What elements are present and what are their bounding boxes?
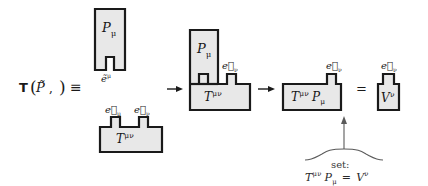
basis-vector-e-nu-index-2: ν xyxy=(234,66,238,73)
p-covector-shape-1 xyxy=(95,9,125,70)
tensor-label-1: Tμν xyxy=(116,131,134,146)
annotation-caption: set: xyxy=(331,159,349,170)
argument-comma: , xyxy=(49,81,53,95)
contracted-index-t: μν xyxy=(299,89,309,98)
tensor-base-2: T xyxy=(204,90,212,104)
p-covector-base-2: P xyxy=(197,41,206,56)
contracted-index-p: μ xyxy=(320,97,325,106)
basis-vector-e-nu-label-3: e⃗ν xyxy=(326,60,342,73)
equivalence-symbol: ≡ xyxy=(70,79,82,95)
brace-arrowhead xyxy=(341,116,347,124)
basis-vector-e-mu-index: μ xyxy=(117,110,121,117)
basis-vector-e-nu-index-3: ν xyxy=(338,66,342,73)
basis-vector-e-nu-label-2: e⃗ν xyxy=(222,60,238,73)
arrow-2-head xyxy=(268,86,275,92)
basis-vector-e-nu-glyph-4: e⃗ xyxy=(381,60,393,71)
tensor-index-1: μν xyxy=(124,131,134,140)
p-covector-label-2: Pμ xyxy=(197,41,211,59)
annotation-t: T xyxy=(305,171,313,184)
basis-vector-e-nu-index: ν xyxy=(146,110,150,117)
annotation-v-index: ν xyxy=(364,170,368,178)
basis-vector-e-nu-index-4: ν xyxy=(393,66,397,73)
vector-base: V xyxy=(381,91,390,105)
contracted-label: TμνPμ xyxy=(291,89,325,106)
p-covector-index-2: μ xyxy=(206,50,211,59)
contracted-base-t: T xyxy=(291,90,299,104)
annotation-equation: TμνPμ=Vν xyxy=(305,170,369,186)
equals-symbol: = xyxy=(356,81,367,96)
p-covector-label-1: Pμ xyxy=(102,20,116,38)
p-covector-base-1: P xyxy=(102,20,111,35)
p-covector-index-1: μ xyxy=(111,29,116,38)
vector-label: Vν xyxy=(381,90,395,105)
vector-index: ν xyxy=(390,90,395,99)
annotation-t-index: μν xyxy=(313,170,322,178)
annotation-p: P xyxy=(325,171,333,184)
annotation-p-index: μ xyxy=(332,178,337,186)
basis-vector-e-nu-label-4: e⃗ν xyxy=(381,60,397,73)
close-paren: ) xyxy=(59,77,66,97)
basis-covector-e-mu-label-1: ẽμ xyxy=(101,72,111,84)
basis-vector-e-nu-glyph: e⃗ xyxy=(134,104,146,115)
tensor-base-1: T xyxy=(116,132,124,146)
basis-vector-e-mu-label-1: e⃗μ xyxy=(105,104,121,117)
basis-vector-e-nu-label-1: e⃗ν xyxy=(134,104,150,117)
tensor-label-2: Tμν xyxy=(204,89,222,104)
basis-vector-e-nu-glyph-3: e⃗ xyxy=(326,60,338,71)
annotation-equals: = xyxy=(342,171,351,184)
figure-canvas: T ( P̃ , ) ≡ Pμ ẽμ e⃗μ e⃗ν Tμν Pμ e⃗ν T… xyxy=(0,0,428,186)
basis-vector-e-nu-glyph-2: e⃗ xyxy=(222,60,234,71)
functional-symbol-T: T xyxy=(19,80,28,95)
argument-p-tilde: P̃ xyxy=(36,80,45,95)
basis-covector-e-mu-index: μ xyxy=(107,72,111,79)
tensor-index-2: μν xyxy=(212,89,222,98)
arrow-1-head xyxy=(176,86,183,92)
basis-vector-e-mu-glyph: e⃗ xyxy=(105,104,117,115)
